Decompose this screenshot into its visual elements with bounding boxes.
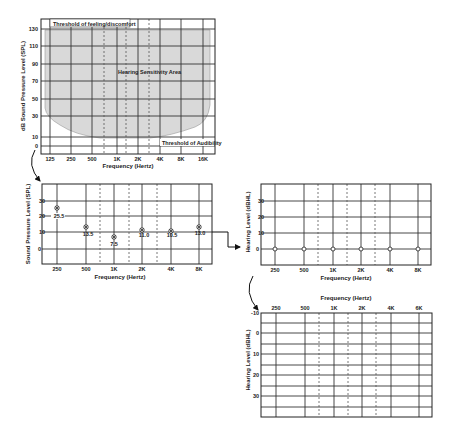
x-axis-label: Frequency (Hertz) [320, 275, 371, 281]
data-label: 10.5 [167, 232, 178, 238]
hearing-sensitivity-chart: Threshold of feeling/discomfort Hearing … [20, 19, 223, 169]
x-tick: 2K [358, 305, 365, 311]
y-tick: 70 [32, 78, 38, 84]
spl-threshold-chart: 25.5 13.5 7.5 11.0 10.5 13.0 30 20 10 0 … [25, 184, 212, 280]
x-tick: 2K [134, 156, 141, 162]
x-tick: 1K [329, 267, 336, 273]
spl-data-points [55, 206, 201, 239]
curved-arrow-icon [31, 150, 40, 181]
y-tick: 0 [35, 143, 38, 149]
x-tick: 1K [113, 156, 120, 162]
y-tick: 10 [39, 229, 45, 235]
y-tick: 0 [38, 246, 41, 252]
x-tick: 8K [195, 266, 202, 272]
y-tick: 20 [39, 213, 45, 219]
x-tick: 500 [81, 266, 90, 272]
data-label: 11.0 [139, 232, 149, 238]
x-axis-label: Frequency (Hertz) [94, 274, 145, 280]
connector-arrow-icon [212, 232, 240, 247]
y-tick: 0 [256, 246, 259, 252]
x-tick: 6K [415, 305, 422, 311]
threshold-audibility-label: Threshold of Audibility [162, 140, 223, 146]
y-axis-label: dB Sound Pressure Level (SPL) [20, 41, 26, 131]
threshold-feeling-label: Threshold of feeling/discomfort [53, 21, 136, 27]
y-tick: 20 [253, 372, 259, 378]
x-tick: 250 [271, 305, 280, 311]
x-tick: 250 [66, 156, 75, 162]
x-tick: 2K [357, 267, 364, 273]
y-tick: 30 [39, 198, 45, 204]
y-tick: 30 [32, 113, 38, 119]
y-tick: 90 [32, 61, 38, 67]
x-tick: 1K [330, 305, 337, 311]
y-tick: 110 [29, 43, 38, 49]
x-tick: 2K [138, 266, 145, 272]
x-axis-label: Frequency (Hertz) [102, 163, 153, 169]
x-tick: 500 [300, 305, 309, 311]
x-tick: 250 [52, 266, 61, 272]
blank-audiogram-chart: Frequency (Hertz) 250 500 1K 2K 4K 6K [245, 295, 432, 417]
data-label: 7.5 [110, 241, 118, 247]
y-axis-label: Sound Pressure Level (SPL) [25, 184, 31, 264]
data-label: 25.5 [54, 213, 65, 219]
audiogram-figure: Threshold of feeling/discomfort Hearing … [0, 0, 454, 439]
x-tick: 16K [198, 156, 208, 162]
y-tick: 10 [32, 134, 38, 140]
y-tick: 10 [253, 351, 259, 357]
x-tick: 1K [110, 266, 117, 272]
y-tick: 10 [258, 230, 264, 236]
y-axis-label: Hearing Level (dBHL) [245, 191, 251, 252]
x-tick: 125 [45, 156, 54, 162]
x-tick: 500 [87, 156, 96, 162]
x-tick: 8K [414, 267, 421, 273]
y-tick: 130 [29, 26, 38, 32]
data-label: 13.0 [195, 230, 206, 236]
curved-arrow-icon [249, 276, 258, 310]
y-tick: -10 [251, 310, 259, 316]
hearing-level-chart: 30 20 10 0 250 500 1K 2K 4K 8K Frequency… [245, 184, 431, 281]
hearing-sensitivity-label: Hearing Sensitivity Area [118, 69, 182, 75]
x-tick: 8K [177, 156, 184, 162]
x-tick: 250 [270, 267, 279, 273]
x-axis-label: Frequency (Hertz) [320, 295, 371, 301]
y-tick: 30 [258, 198, 264, 204]
x-tick: 4K [386, 267, 393, 273]
x-tick: 4K [387, 305, 394, 311]
x-tick: 500 [299, 267, 308, 273]
y-tick: 0 [256, 330, 259, 336]
y-tick: 50 [32, 96, 38, 102]
y-tick: 20 [258, 214, 264, 220]
x-tick: 4K [167, 266, 174, 272]
data-label: 13.5 [83, 231, 94, 237]
y-axis-label: Hearing Level (dBHL) [245, 329, 251, 390]
x-tick: 4K [156, 156, 163, 162]
y-tick: 30 [253, 393, 259, 399]
